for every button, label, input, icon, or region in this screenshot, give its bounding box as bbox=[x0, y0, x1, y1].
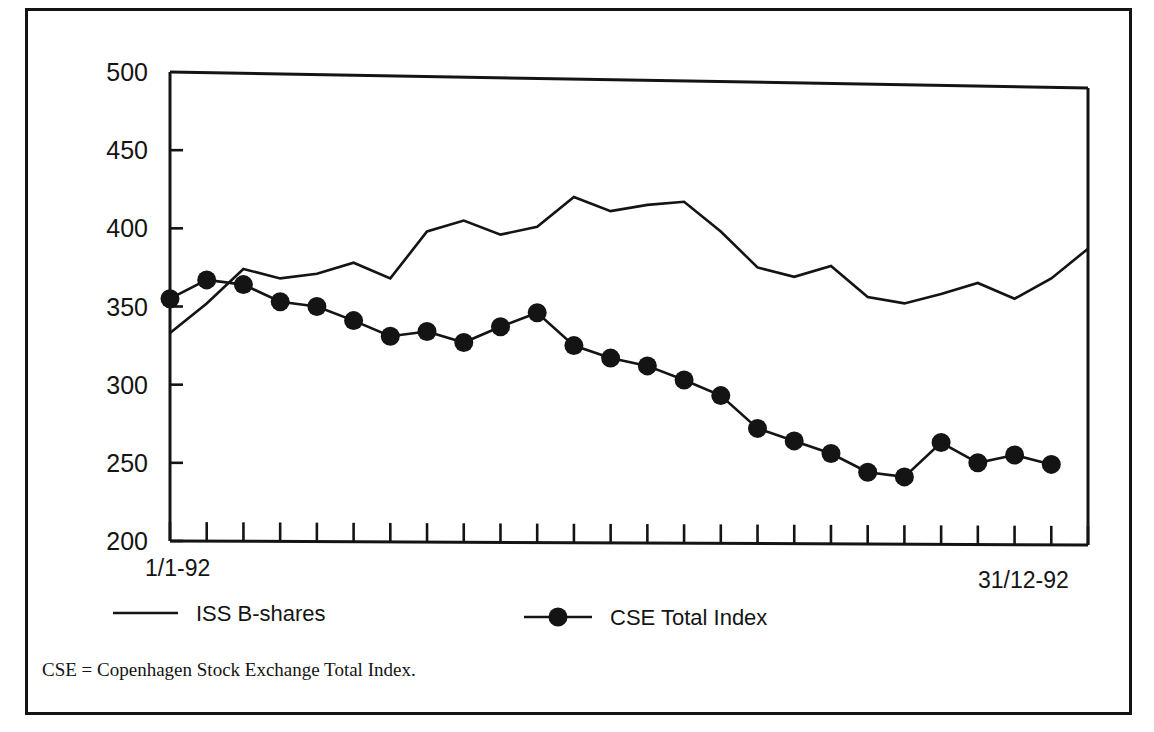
series-line-iss-b-shares bbox=[170, 197, 1088, 333]
data-point-marker bbox=[161, 289, 180, 308]
data-point-marker bbox=[528, 303, 547, 322]
line-chart-canvas: 2002503003504004505001/1-9231/12-92ISS B… bbox=[0, 0, 1154, 732]
data-point-marker bbox=[454, 333, 473, 352]
data-point-marker bbox=[638, 356, 657, 375]
data-point-marker bbox=[381, 327, 400, 346]
data-point-marker bbox=[1042, 455, 1061, 474]
data-point-marker bbox=[675, 371, 694, 390]
data-point-marker bbox=[785, 431, 804, 450]
data-point-marker bbox=[601, 349, 620, 368]
data-point-marker bbox=[564, 336, 583, 355]
y-axis-tick-label: 450 bbox=[106, 136, 148, 164]
x-axis-end-label: 31/12-92 bbox=[978, 567, 1069, 593]
data-point-marker bbox=[858, 463, 877, 482]
data-point-marker bbox=[1005, 446, 1024, 465]
legend-swatch-marker-cse bbox=[549, 608, 568, 627]
y-axis-tick-label: 300 bbox=[106, 371, 148, 399]
y-axis-tick-label: 500 bbox=[106, 58, 148, 86]
data-point-marker bbox=[748, 419, 767, 438]
x-axis-start-label: 1/1-92 bbox=[145, 555, 210, 581]
y-axis-tick-label: 400 bbox=[106, 214, 148, 242]
data-point-marker bbox=[895, 467, 914, 486]
data-point-marker bbox=[307, 297, 326, 316]
data-point-marker bbox=[968, 453, 987, 472]
chart-figure: 2002503003504004505001/1-9231/12-92ISS B… bbox=[0, 0, 1154, 732]
y-axis-tick-label: 200 bbox=[106, 527, 148, 555]
data-point-marker bbox=[271, 292, 290, 311]
y-axis-tick-label: 250 bbox=[106, 449, 148, 477]
chart-footnote: CSE = Copenhagen Stock Exchange Total In… bbox=[42, 659, 416, 680]
data-point-marker bbox=[418, 322, 437, 341]
legend-label-cse-total-index: CSE Total Index bbox=[610, 605, 767, 630]
series-line-cse-total-index bbox=[170, 280, 1051, 477]
data-point-marker bbox=[711, 386, 730, 405]
legend-label-iss-b-shares: ISS B-shares bbox=[196, 601, 326, 626]
data-point-marker bbox=[344, 311, 363, 330]
y-axis-tick-label: 350 bbox=[106, 293, 148, 321]
data-point-marker bbox=[234, 275, 253, 294]
data-point-marker bbox=[197, 270, 216, 289]
plot-top-border bbox=[170, 72, 1088, 88]
data-point-marker bbox=[491, 317, 510, 336]
x-axis-line bbox=[170, 541, 1088, 545]
data-point-marker bbox=[932, 433, 951, 452]
data-point-marker bbox=[822, 444, 841, 463]
